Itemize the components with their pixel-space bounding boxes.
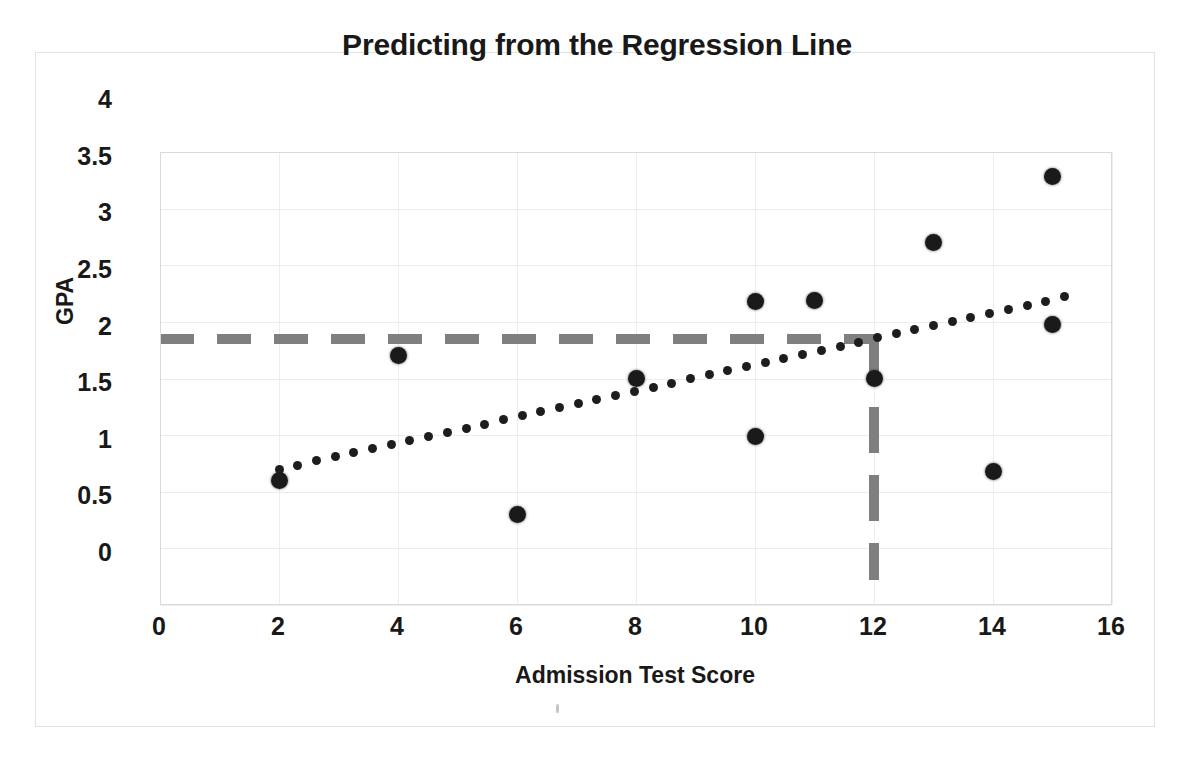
gridline-vertical (279, 152, 280, 605)
trendline-dot (910, 325, 919, 334)
y-axis-tick-label: 1.5 (77, 368, 112, 397)
gridline-vertical (993, 152, 994, 605)
data-point (985, 463, 1002, 480)
trendline-dot (649, 383, 658, 392)
y-axis-tick-labels: 00.511.522.533.54 (60, 99, 112, 552)
prediction-guide-dash (502, 334, 536, 344)
trendline-dot (536, 407, 545, 416)
data-point (1044, 168, 1061, 185)
prediction-guide-dash (331, 334, 365, 344)
x-axis-tick-label: 16 (1097, 612, 1125, 641)
trendline-dot (966, 313, 975, 322)
x-axis-tick-label: 0 (152, 612, 166, 641)
trendline-dot (761, 358, 770, 367)
y-axis-title: GPA (52, 277, 79, 325)
data-point (271, 472, 288, 489)
x-axis-tick-label: 8 (628, 612, 642, 641)
data-point (866, 370, 883, 387)
trendline-dot (387, 440, 396, 449)
trendline-dot (293, 461, 302, 470)
y-axis-tick-label: 0.5 (77, 481, 112, 510)
x-axis-tick-label: 12 (859, 612, 887, 641)
prediction-guide-dash (217, 334, 251, 344)
trendline-dot (1041, 297, 1050, 306)
trendline-dot (312, 456, 321, 465)
plot-area (160, 152, 1112, 605)
data-point (806, 292, 823, 309)
y-axis-tick-label: 1 (98, 424, 112, 453)
gridline-horizontal (160, 605, 1112, 606)
x-axis-tick-label: 14 (978, 612, 1006, 641)
trendline-dot (798, 350, 807, 359)
prediction-guide-dash (274, 334, 308, 344)
trendline-dot (1004, 305, 1013, 314)
prediction-guide-dash (559, 334, 593, 344)
x-axis-tick-label: 6 (509, 612, 523, 641)
trendline-dot (892, 329, 901, 338)
x-axis-tick-label: 10 (740, 612, 768, 641)
prediction-guide-dash (445, 334, 479, 344)
trendline-dot (1060, 292, 1069, 301)
x-axis-tick-label: 4 (390, 612, 404, 641)
prediction-guide-dash (388, 334, 422, 344)
gridline-vertical (517, 152, 518, 605)
trendline-dot (779, 354, 788, 363)
trendline-dot (742, 362, 751, 371)
prediction-guide-dash (673, 334, 707, 344)
x-axis-tick-label: 2 (271, 612, 285, 641)
y-axis-tick-label: 2 (98, 311, 112, 340)
trendline-dot (723, 366, 732, 375)
gridline-vertical (755, 152, 756, 605)
trendline-dot (405, 436, 414, 445)
prediction-guide-dash (869, 475, 879, 521)
y-axis-tick-label: 3.5 (77, 141, 112, 170)
trendline-dot (499, 415, 508, 424)
trendline-dot (611, 391, 620, 400)
trendline-dot (817, 346, 826, 355)
y-axis-tick-label: 4 (98, 85, 112, 114)
data-point (628, 370, 645, 387)
prediction-guide-dash (616, 334, 650, 344)
x-axis-title: Admission Test Score (159, 662, 1111, 689)
prediction-guide-dash (730, 334, 764, 344)
data-point (1044, 316, 1061, 333)
data-point (747, 428, 764, 445)
data-point (925, 234, 942, 251)
data-point (747, 293, 764, 310)
trendline-dot (518, 411, 527, 420)
prediction-guide-dash (869, 407, 879, 453)
trendline-dot (574, 399, 583, 408)
trendline-dot (1023, 301, 1032, 310)
scan-artifact (556, 704, 559, 713)
trendline-dot (667, 379, 676, 388)
gridline-vertical (398, 152, 399, 605)
trendline-dot (349, 448, 358, 457)
y-axis-tick-label: 2.5 (77, 254, 112, 283)
data-point (509, 506, 526, 523)
chart-title: Predicting from the Regression Line (0, 28, 1194, 62)
trendline-dot (424, 432, 433, 441)
trendline-dot (331, 452, 340, 461)
data-point (390, 347, 407, 364)
prediction-guide-dash (787, 334, 821, 344)
trendline-dot (462, 424, 471, 433)
trendline-dot (630, 387, 639, 396)
trendline-dot (555, 403, 564, 412)
prediction-guide-dash (869, 543, 879, 580)
trendline-dot (368, 444, 377, 453)
x-axis-tick-labels: 0246810121416 (159, 612, 1111, 648)
y-axis-tick-label: 3 (98, 198, 112, 227)
gridline-vertical (1112, 152, 1113, 605)
y-axis-tick-label: 0 (98, 538, 112, 567)
trendline-dot (480, 420, 489, 429)
prediction-guide-dash (160, 334, 194, 344)
trendline-dot (592, 395, 601, 404)
